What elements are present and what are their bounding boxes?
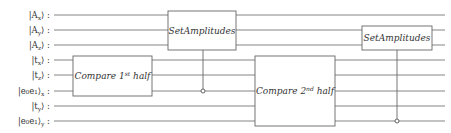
qubit-label-tx: |tx⟩ :	[31, 55, 50, 66]
qubit-label-tz: |tz⟩ :	[32, 70, 50, 81]
set-amplitudes-1-control-dot	[201, 89, 205, 93]
set-amplitudes-2-label: SetAmplitudes	[364, 33, 431, 43]
qubit-label-e0e1y: |e₀e₁⟩y :	[18, 116, 50, 128]
compare-2nd-half-label: Compare 2nd half	[256, 85, 336, 96]
compare-1st-half-label: Compare 1st half	[75, 70, 153, 81]
quantum-circuit: |Ax⟩ :|Ay⟩ :|Az⟩ :|tx⟩ :|tz⟩ :|e₀e₁⟩x :|…	[0, 0, 451, 133]
qubit-labels: |Ax⟩ :|Ay⟩ :|Az⟩ :|tx⟩ :|tz⟩ :|e₀e₁⟩x :|…	[18, 10, 50, 128]
qubit-label-ty: |ty⟩ :	[31, 101, 50, 113]
set-amplitudes-2-control-dot	[395, 119, 399, 123]
qubit-label-Ax: |Ax⟩ :	[29, 10, 50, 21]
qubit-label-Az: |Az⟩ :	[29, 40, 50, 51]
set-amplitudes-1-label: SetAmplitudes	[169, 26, 236, 36]
qubit-label-e0e1x: |e₀e₁⟩x :	[18, 86, 50, 97]
gates: Compare 1st halfSetAmplitudesCompare 2nd…	[73, 11, 432, 126]
qubit-label-Ay: |Ay⟩ :	[29, 25, 50, 37]
